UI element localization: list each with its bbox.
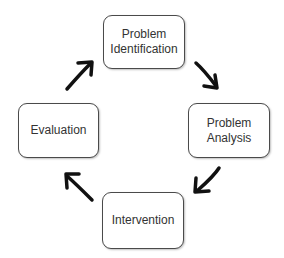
arrow-down-left-icon xyxy=(195,168,219,192)
arrow-down-right-icon xyxy=(196,63,217,88)
arrow-up-right-icon xyxy=(67,62,92,89)
arrow-up-left-icon xyxy=(66,174,92,200)
arrows-layer xyxy=(0,0,284,258)
